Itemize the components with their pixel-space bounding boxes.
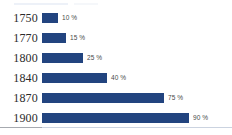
bar-1770[interactable] [42,33,66,43]
category-label-1870: 1870 [0,88,38,108]
bar-rows: 1750 10 % 1770 15 % 1800 25 % 1840 [0,8,232,128]
cropped-header-remnant [0,0,232,8]
category-label-1840: 1840 [0,68,38,88]
bar-1870[interactable] [42,93,164,103]
table-row: 1800 25 % [0,48,232,68]
bar-1800[interactable] [42,53,83,63]
value-label-1870: 75 % [168,92,183,104]
header-remnant-line [14,3,68,5]
bar-chart: 1750 10 % 1770 15 % 1800 25 % 1840 [0,0,232,135]
bar-1900[interactable] [42,113,189,123]
value-label-1750: 10 % [62,12,77,24]
category-label-1770: 1770 [0,28,38,48]
bottom-divider-left [0,127,42,128]
category-label-1800: 1800 [0,48,38,68]
value-label-1800: 25 % [87,52,102,64]
bar-track-1900: 90 % [42,108,232,128]
bar-1750[interactable] [42,13,58,23]
value-label-1770: 15 % [70,32,85,44]
value-label-1900: 90 % [193,112,208,124]
bar-track-1770: 15 % [42,28,232,48]
table-row: 1840 40 % [0,68,232,88]
value-label-1840: 40 % [111,72,126,84]
category-label-1750: 1750 [0,8,38,28]
table-row: 1750 10 % [0,8,232,28]
bar-1840[interactable] [42,73,107,83]
table-row: 1870 75 % [0,88,232,108]
category-label-1900: 1900 [0,108,38,128]
header-remnant-line-secondary [74,3,98,5]
bar-track-1800: 25 % [42,48,232,68]
bar-track-1750: 10 % [42,8,232,28]
bar-track-1840: 40 % [42,68,232,88]
table-row: 1770 15 % [0,28,232,48]
bar-track-1870: 75 % [42,88,232,108]
table-row: 1900 90 % [0,108,232,128]
